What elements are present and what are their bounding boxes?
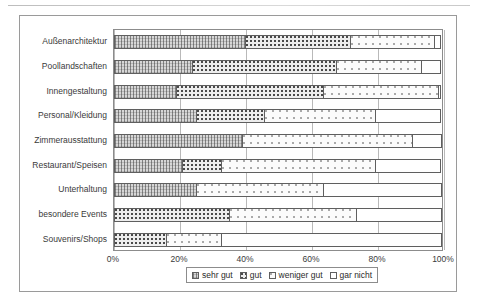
bar-row [114,183,442,197]
bar-segment-weniger-gut [336,60,422,74]
bar-segment-sehr-gut [114,134,243,148]
legend-item[interactable]: gut [240,270,262,280]
bar-segment-sehr-gut [114,60,193,74]
category-label: Poollandschaften [42,59,107,73]
category-label: Personal/Kleidung [38,108,107,122]
bar-segment-gar-nicht [356,208,442,222]
legend-swatch-icon [192,272,199,279]
bar-segment-weniger-gut [196,183,325,197]
bar-segment-gut [245,35,351,49]
bar-segment-weniger-gut [242,134,414,148]
x-tick-label: 80% [368,253,385,265]
bar-segment-gut [196,109,265,123]
chart-figure: AußenarchitekturPoollandschaftenInnenges… [19,15,457,292]
category-label: Zimmerausstattung [34,133,107,147]
x-tick-label: 0% [107,253,119,265]
bar-row [114,85,442,99]
bar-segment-gut [114,208,230,222]
bar-segment-gar-nicht [434,35,441,49]
category-label: besondere Events [38,207,107,221]
bar-segment-weniger-gut [221,159,376,173]
bar-segment-gar-nicht [221,233,442,247]
bar-row [114,208,442,222]
bar-segment-gar-nicht [375,109,441,123]
category-label: Restaurant/Speisen [32,158,107,172]
bar-segment-sehr-gut [114,183,197,197]
page-top-rule [8,5,470,6]
legend-label: gut [250,270,262,280]
legend-swatch-icon [269,272,276,279]
bar-row [114,233,442,247]
x-tick-label: 60% [302,253,319,265]
gridline [444,30,445,250]
x-axis-ticks: 0%20%40%60%80%100% [113,253,443,265]
x-tick-label: 20% [170,253,187,265]
category-label: Innengestaltung [47,84,108,98]
stacked-bars [114,30,442,250]
x-tick-label: 40% [236,253,253,265]
bar-segment-weniger-gut [323,85,439,99]
x-tick-label: 100% [432,253,454,265]
bar-segment-gut [192,60,337,74]
legend-label: weniger gut [279,270,323,280]
category-label: Außenarchitektur [42,34,107,48]
legend-label: gar nicht [340,270,373,280]
legend-swatch-icon [240,272,247,279]
category-label: Unterhaltung [58,182,107,196]
bar-segment-weniger-gut [166,233,222,247]
category-axis-labels: AußenarchitekturPoollandschaftenInnenges… [20,29,111,251]
bar-segment-weniger-gut [350,35,436,49]
bar-row [114,109,442,123]
bar-segment-gut [176,85,325,99]
bar-segment-gut [182,159,222,173]
bar-segment-gar-nicht [323,183,442,197]
legend-item[interactable]: gar nicht [330,270,373,280]
bar-segment-sehr-gut [114,109,197,123]
bar-segment-sehr-gut [114,35,246,49]
bar-row [114,159,442,173]
bar-segment-gar-nicht [375,159,441,173]
bar-segment-sehr-gut [114,85,177,99]
bar-segment-gar-nicht [412,134,442,148]
legend-swatch-icon [330,272,337,279]
legend-label: sehr gut [202,270,233,280]
bar-segment-sehr-gut [114,159,183,173]
bar-segment-gar-nicht [438,85,441,99]
legend-item[interactable]: weniger gut [269,270,323,280]
bar-row [114,60,442,74]
bar-segment-weniger-gut [229,208,358,222]
plot-area [113,29,443,251]
legend-item[interactable]: sehr gut [192,270,233,280]
category-label: Souvenirs/Shops [43,232,107,246]
bar-segment-weniger-gut [264,109,376,123]
bar-row [114,134,442,148]
bar-segment-gar-nicht [421,60,441,74]
bar-row [114,35,442,49]
chart-legend: sehr gutgutweniger gutgar nicht [186,267,378,283]
bar-segment-gut [114,233,167,247]
